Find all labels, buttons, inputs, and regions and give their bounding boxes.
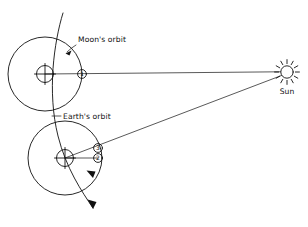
moons-orbit-label: Moon's orbit xyxy=(78,35,126,44)
moon-3-label: 3 xyxy=(96,144,100,151)
earth-orbit-direction-arrowhead xyxy=(88,200,97,210)
moons-orbit-leader-arrowhead xyxy=(66,51,72,56)
moon-orbit-direction-arrowhead xyxy=(87,171,96,179)
sun-rays xyxy=(275,60,300,85)
sun-icon xyxy=(275,60,300,85)
earth-symbol-lower xyxy=(55,148,76,169)
moon-1-label: 1 xyxy=(80,70,84,77)
sun-label: Sun xyxy=(280,87,295,96)
orbit-diagram: 1 3 2 xyxy=(0,0,308,227)
moon-2-label: 2 xyxy=(96,154,100,161)
moons-orbit-leader-line xyxy=(67,45,76,52)
diagram-canvas: 1 3 2 xyxy=(0,0,308,227)
earths-orbit-label: Earth's orbit xyxy=(63,112,111,121)
